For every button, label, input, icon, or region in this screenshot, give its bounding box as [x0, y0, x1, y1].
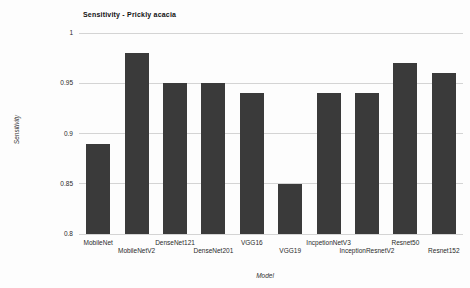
y-tick-label: 1 [0, 29, 73, 37]
bar-IncpetionNetV3 [317, 93, 341, 234]
chart-title: Sensitivity - Prickly acacia [83, 11, 176, 18]
y-tick-label: 0.85 [0, 180, 73, 188]
x-tick-label: InceptionResnetV2 [340, 247, 395, 254]
bar-InceptionResnetV2 [355, 93, 379, 234]
bar-Resnet50 [393, 63, 417, 234]
bar-VGG16 [240, 93, 264, 234]
bars-container [79, 33, 463, 234]
bar-DenseNet201 [201, 83, 225, 234]
x-tick-label: MobileNet [84, 239, 113, 246]
bar-slot [386, 33, 424, 234]
x-tick-label: VGG19 [279, 247, 301, 254]
bar-slot [271, 33, 309, 234]
bar-Resnet152 [432, 73, 456, 234]
bar-slot [233, 33, 271, 234]
x-tick-label: VGG16 [241, 239, 263, 246]
x-tick-label: Resnet152 [428, 247, 459, 254]
bar-slot [117, 33, 155, 234]
x-tick-label: IncpetionNetV3 [306, 239, 350, 246]
x-axis-title: Model [256, 272, 274, 279]
bar-MobileNet [86, 144, 110, 234]
bar-slot [156, 33, 194, 234]
x-tick-label: DenseNet121 [155, 239, 195, 246]
x-tick-label: Resnet50 [391, 239, 419, 246]
bar-MobileNetV2 [125, 53, 149, 234]
y-tick-label: 0.95 [0, 79, 73, 87]
bar-slot [309, 33, 347, 234]
y-tick-label: 0.8 [0, 230, 73, 238]
x-tick-label: DenseNet201 [194, 247, 234, 254]
bar-DenseNet121 [163, 83, 187, 234]
plot-area [79, 33, 463, 234]
bar-slot [79, 33, 117, 234]
bar-slot [425, 33, 463, 234]
bar-VGG19 [278, 184, 302, 234]
x-tick-label: MobileNetV2 [118, 247, 155, 254]
y-tick-label: 0.9 [0, 130, 73, 138]
bar-slot [348, 33, 386, 234]
bar-chart-figure: Sensitivity - Prickly acacia Sensitivity… [0, 0, 470, 288]
bar-slot [194, 33, 232, 234]
